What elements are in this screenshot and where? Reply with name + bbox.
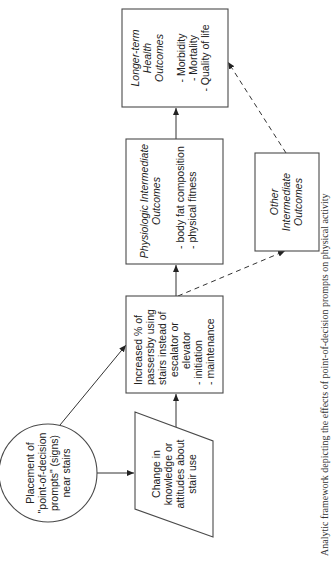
increased-line-5: elevator [180, 331, 192, 369]
change-line-3: attitudes about [174, 439, 186, 508]
physiologic-title-line-1: Physiologic Intermediate [138, 144, 150, 259]
node-other-outcomes: Other Intermediate Outcomes [255, 153, 319, 251]
caption-text: Analytic framework depicting the effects… [319, 194, 330, 557]
change-line-2: knowledge or [162, 442, 174, 505]
other-title-line-1: Other [268, 188, 280, 215]
node-change-knowledge: Change in knowledge or attitudes about s… [135, 412, 213, 537]
longterm-title-line-3: Outcomes [153, 33, 165, 82]
physiologic-title-line-2: Outcomes [150, 176, 162, 225]
analytic-framework-diagram: Longer-term Health Outcomes - Morbidity … [0, 0, 332, 562]
edge-other-to-longterm [228, 62, 286, 153]
longterm-title-line-2: Health [141, 43, 153, 74]
increased-line-1: Increased % of [132, 315, 144, 385]
change-line-4: stair use [186, 454, 198, 494]
physiologic-bullet-fitness: - physical fitness [186, 171, 198, 249]
longterm-bullet-morbidity: - Morbidity [175, 33, 187, 83]
change-line-1: Change in [150, 450, 162, 498]
placement-line-4: near stairs [60, 448, 72, 497]
figure-caption: Analytic framework depicting the effects… [319, 194, 330, 557]
physiologic-bullet-body-fat: - body fat composition [174, 146, 186, 249]
edges [60, 62, 286, 473]
placement-line-3: prompts" (signs) [48, 435, 60, 511]
placement-line-1: Placement of [24, 442, 36, 503]
increased-line-4: escalator or [168, 322, 180, 377]
increased-line-3: stairs instead of [156, 311, 168, 385]
node-increased-stair-use: Increased % of passersby using stairs in… [126, 296, 223, 393]
longterm-bullet-mortality: - Mortality [187, 34, 199, 81]
increased-line-2: passersby using [144, 309, 156, 385]
node-physiologic-outcomes: Physiologic Intermediate Outcomes - body… [126, 139, 223, 264]
other-title-line-3: Outcomes [292, 177, 304, 226]
longterm-title-line-1: Longer-term [129, 29, 141, 86]
increased-bullet-initiation: - initiation [192, 340, 204, 385]
increased-bullet-maintenance: - maintenance [204, 318, 216, 385]
longterm-bullet-quality-of-life: - Quality of life [199, 24, 211, 91]
node-longterm-outcomes: Longer-term Health Outcomes - Morbidity … [122, 9, 228, 107]
placement-line-2: "point-of-decision [36, 432, 48, 513]
node-placement-prompts: Placement of "point-of-decision prompts"… [0, 424, 97, 522]
edge-placement-to-increased [60, 345, 126, 425]
other-title-line-2: Intermediate [280, 173, 292, 232]
